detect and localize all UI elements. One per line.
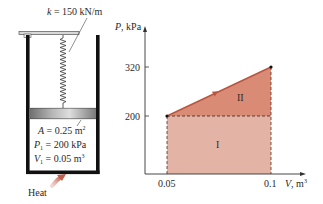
region-II-label: II	[237, 92, 244, 103]
spring-constant-label: k = 150 kN/m	[47, 6, 102, 17]
heat-label: Heat	[28, 187, 47, 198]
region-I-label: I	[216, 139, 219, 150]
pressure-value: = 200 kPa	[43, 139, 86, 150]
cylinder-right-wall	[96, 35, 100, 174]
x-axis-arrow-icon	[300, 172, 306, 176]
state-2-point	[269, 65, 272, 68]
area-exponent: 2	[83, 125, 86, 131]
spring-constant-value: = 150 kN/m	[51, 6, 102, 17]
x-axis-exponent: 3	[304, 178, 307, 184]
x-tick-label-01: 0.1	[264, 178, 277, 189]
x-tick-label-005: 0.05	[158, 178, 176, 189]
piston-cylinder-pv-diagram: k = 150 kN/m A = 0.25 m2 P1 = 200 kPa V1…	[0, 0, 323, 204]
cylinder-left-wall	[26, 35, 30, 174]
y-tick-label-200: 200	[125, 111, 140, 122]
heat-arrow-icon	[52, 174, 66, 186]
region-II-text: II	[237, 92, 244, 103]
heat-text: Heat	[28, 187, 47, 198]
pv-graph	[143, 26, 306, 176]
piston	[30, 108, 96, 119]
cylinder-bottom-wall	[26, 171, 100, 175]
y-axis-unit: , kPa	[121, 21, 141, 32]
y-axis-arrow-icon	[143, 26, 147, 32]
spring-icon	[60, 35, 66, 108]
y-tick-label-320: 320	[125, 62, 140, 73]
piston-area-label: A = 0.25 m2	[38, 125, 86, 136]
volume-exponent: 3	[82, 153, 85, 159]
area-value: = 0.25 m	[44, 125, 82, 136]
y-axis-label: P, kPa	[115, 21, 141, 32]
initial-pressure-label: P1 = 200 kPa	[34, 139, 86, 150]
x-axis-label: V, m3	[285, 178, 307, 189]
state-1-point	[165, 114, 168, 117]
y-tick-text: 320	[125, 62, 140, 73]
volume-value: = 0.05 m	[43, 153, 81, 164]
initial-volume-label: V1 = 0.05 m3	[34, 153, 85, 164]
spring-label-leader	[69, 18, 87, 52]
x-tick-text: 0.05	[158, 178, 176, 189]
x-axis-unit: , m	[291, 178, 304, 189]
region-I-text: I	[216, 139, 219, 150]
diagram-canvas	[0, 0, 323, 204]
y-tick-text: 200	[125, 111, 140, 122]
x-tick-text: 0.1	[264, 178, 277, 189]
